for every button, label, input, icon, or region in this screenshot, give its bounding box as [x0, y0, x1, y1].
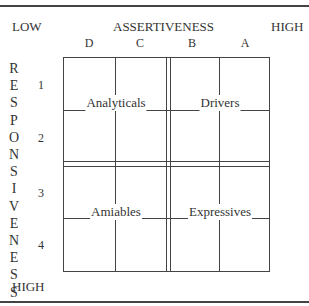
grid-line-ba-lower [219, 110, 220, 271]
axis-letter: E [7, 77, 21, 94]
row-label-2: 2 [38, 131, 44, 146]
grid-line-mid-bottom [64, 166, 269, 167]
grid-line-cb-left [166, 58, 167, 271]
quadrant-amiables: Amiables [90, 204, 142, 220]
column-label-d: D [79, 36, 99, 51]
assertiveness-axis-title: ASSERTIVENESS [113, 20, 214, 34]
axis-letter: E [7, 249, 21, 266]
frame-bottom-border [0, 301, 309, 303]
quadrant-analyticals: Analyticals [85, 95, 146, 111]
axis-letter: I [7, 180, 21, 197]
grid-line-dc-lower [115, 110, 116, 271]
grid-line-mid-top [64, 161, 269, 162]
responsiveness-axis-title: R E S P O N S I V E N E S S [7, 60, 21, 301]
axis-letter: P [7, 112, 21, 129]
axis-letter: R [7, 60, 21, 77]
axis-letter: S [7, 163, 21, 180]
responsiveness-high-label: HIGH [12, 280, 45, 294]
column-label-a: A [235, 36, 255, 51]
column-label-b: B [182, 36, 202, 51]
quadrant-expressives: Expressives [188, 204, 252, 220]
row-label-4: 4 [38, 238, 44, 253]
grid-line-cb-right [170, 58, 171, 271]
row-label-3: 3 [38, 186, 44, 201]
assertiveness-high-label: HIGH [271, 20, 304, 34]
assertiveness-low-label: LOW [12, 20, 42, 34]
column-label-c: C [130, 36, 150, 51]
frame-top-border [0, 5, 309, 7]
row-label-1: 1 [38, 78, 44, 93]
axis-letter: S [7, 94, 21, 111]
axis-letter: O [7, 129, 21, 146]
social-style-grid: Analyticals Drivers Amiables Expressives [63, 57, 270, 272]
quadrant-drivers: Drivers [200, 95, 241, 111]
axis-letter: N [7, 232, 21, 249]
axis-letter: V [7, 198, 21, 215]
axis-letter: E [7, 215, 21, 232]
axis-letter: N [7, 146, 21, 163]
